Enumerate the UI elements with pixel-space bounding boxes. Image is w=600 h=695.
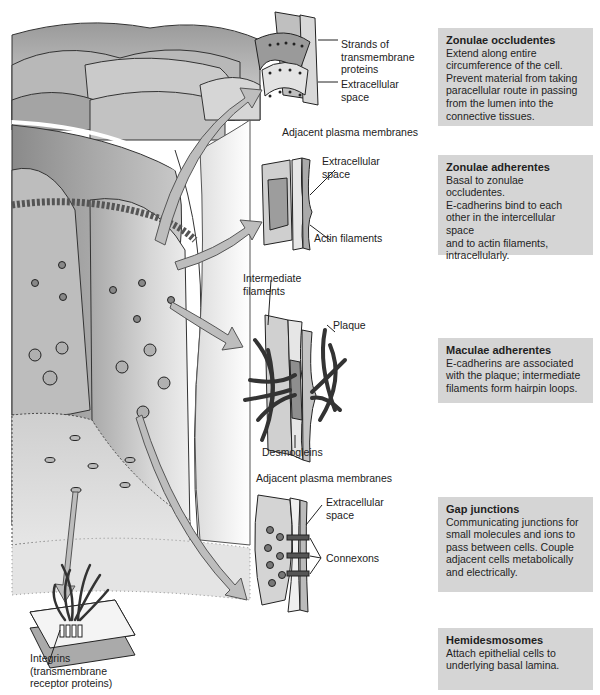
label-adjacent-plasma-membranes-top: Adjacent plasma membranes xyxy=(282,126,418,139)
label-intermediate-filaments: Intermediate filaments xyxy=(243,272,301,297)
label-actin-filaments: Actin filaments xyxy=(314,232,382,245)
box-zonulae-adherentes: Zonulae adherentes Basal to zonulae occl… xyxy=(438,155,593,255)
box-title: Gap junctions xyxy=(446,503,585,516)
label-extracellular-space-tight: Extracellular space xyxy=(341,78,399,103)
box-zonulae-occludentes: Zonulae occludentes Extend along entire … xyxy=(438,28,593,126)
label-adjacent-plasma-membranes-bottom: Adjacent plasma membranes xyxy=(256,472,392,485)
label-text: Extracellular space xyxy=(341,78,399,103)
label-extracellular-space-gap: Extracellular space xyxy=(326,496,384,521)
box-gap-junctions: Gap junctions Communicating junctions fo… xyxy=(438,497,593,592)
box-maculae-adherentes: Maculae adherentes E-cadherins are assoc… xyxy=(438,338,593,403)
box-title: Maculae adherentes xyxy=(446,344,585,357)
box-title: Hemidesmosomes xyxy=(446,634,585,647)
box-text: Attach epithelial cells to underlying ba… xyxy=(446,647,585,672)
label-connexons: Connexons xyxy=(326,552,379,565)
tight-junction-inset xyxy=(255,12,338,105)
desmosome-inset xyxy=(245,280,345,462)
box-hemidesmosomes: Hemidesmosomes Attach epithelial cells t… xyxy=(438,628,593,690)
label-text: Strands of transmembrane proteins xyxy=(341,38,415,75)
box-title: Zonulae occludentes xyxy=(446,34,585,47)
box-text: E-cadherins are associated with the plaq… xyxy=(446,357,585,395)
label-extracellular-space-adherens: Extracellular space xyxy=(322,155,380,180)
box-text: Communicating junctions for small molecu… xyxy=(446,516,585,579)
label-strands-transmembrane-proteins: Strands of transmembrane proteins xyxy=(341,38,415,76)
gap-junction-inset xyxy=(255,495,322,612)
label-desmogleins: Desmogleins xyxy=(262,446,323,459)
box-title: Zonulae adherentes xyxy=(446,161,585,174)
box-text: Extend along entire circumference of the… xyxy=(446,47,585,123)
box-text: Basal to zonulae occludentes. E-cadherin… xyxy=(446,174,585,262)
label-plaque: Plaque xyxy=(333,319,366,332)
label-integrins: Integrins (transmembrane receptor protei… xyxy=(30,652,112,690)
